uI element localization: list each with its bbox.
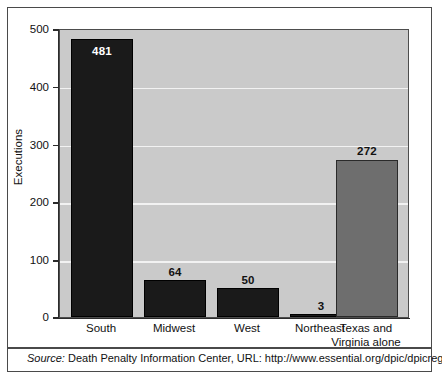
bar-west[interactable] xyxy=(217,288,279,317)
y-axis-ticks xyxy=(52,29,58,318)
bar-value-south: 481 xyxy=(71,45,133,57)
figure-frame: 481 64 50 3 272 500 400 300 200 100 0 Ex… xyxy=(7,7,432,372)
x-axis-category-labels: South Midwest West Northeast Texas and V… xyxy=(59,322,409,354)
y-axis-title: Executions xyxy=(12,127,24,187)
y-tick-label-200: 200 xyxy=(30,196,49,208)
bar-value-northeast: 3 xyxy=(290,300,352,312)
y-tick-label-100: 100 xyxy=(30,254,49,266)
source-note: Source: Death Penalty Information Center… xyxy=(27,352,442,364)
y-tick-500 xyxy=(53,29,58,31)
x-label-west: West xyxy=(216,322,278,336)
x-label-west-line1: West xyxy=(216,322,278,336)
y-tick-label-300: 300 xyxy=(30,139,49,151)
bar-value-texas-virginia: 272 xyxy=(336,145,398,157)
source-divider xyxy=(8,347,431,349)
bar-midwest[interactable] xyxy=(144,280,206,317)
source-citation-text: Death Penalty Information Center, URL: h… xyxy=(65,352,442,364)
plot-area: 481 64 50 3 272 xyxy=(59,29,409,318)
x-label-south-line1: South xyxy=(70,322,132,336)
bar-value-west: 50 xyxy=(217,274,279,286)
bar-south[interactable] xyxy=(71,39,133,317)
y-tick-300 xyxy=(53,145,58,147)
y-tick-label-500: 500 xyxy=(30,23,49,35)
y-tick-200 xyxy=(53,202,58,204)
y-tick-400 xyxy=(53,87,58,89)
y-tick-label-400: 400 xyxy=(30,81,49,93)
x-axis-line xyxy=(58,318,410,320)
x-label-midwest: Midwest xyxy=(143,322,205,336)
y-tick-label-0: 0 xyxy=(43,311,49,323)
x-label-texas-virginia-line1: Texas and xyxy=(331,322,401,336)
x-label-texas-virginia: Texas and Virginia alone xyxy=(331,322,401,349)
source-label: Source: xyxy=(27,352,65,364)
x-label-midwest-line1: Midwest xyxy=(143,322,205,336)
y-tick-0 xyxy=(53,317,58,319)
bar-value-midwest: 64 xyxy=(144,266,206,278)
bar-series: 481 64 50 3 272 xyxy=(60,30,408,317)
y-tick-100 xyxy=(53,260,58,262)
x-label-south: South xyxy=(70,322,132,336)
bar-texas-virginia[interactable] xyxy=(336,160,398,317)
